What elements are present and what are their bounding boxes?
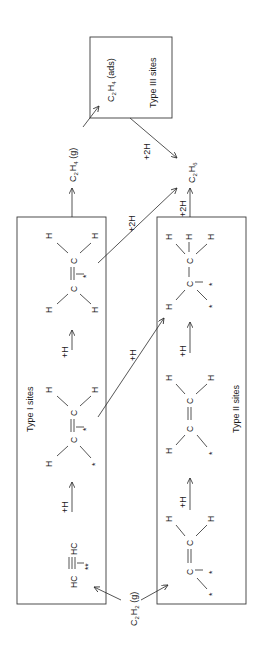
svg-text:H: H — [90, 233, 100, 239]
svg-text:C: C — [69, 437, 79, 443]
svg-text:H: H — [164, 375, 174, 381]
svg-text:H: H — [206, 516, 216, 522]
plus-h-label-type2-upper: +H — [178, 345, 188, 357]
plus-h-label-type1-upper: +H — [60, 346, 70, 358]
svg-text:*: * — [81, 427, 91, 431]
plus-2h-label-type1: +2H — [127, 215, 137, 232]
svg-text:HC: HC — [69, 543, 79, 555]
svg-text:HC: HC — [69, 576, 79, 588]
c2h6-label: C2H6 — [187, 162, 198, 183]
svg-text:C: C — [185, 281, 195, 287]
type2-sites-label: Type II sites — [231, 384, 241, 433]
svg-text:H: H — [164, 304, 174, 310]
svg-text:C: C — [185, 398, 195, 404]
plus-h-label-type1-lower: +H — [60, 501, 70, 513]
svg-text:C2H2 (g): C2H2 (g) — [129, 592, 140, 626]
svg-text:C: C — [69, 410, 79, 416]
svg-text:*: * — [207, 592, 217, 596]
svg-text:**: ** — [83, 563, 93, 570]
svg-text:C: C — [69, 286, 79, 292]
type3-sites-box — [90, 37, 172, 118]
arrow-type1-to-c2h6 — [98, 188, 177, 263]
svg-text:H: H — [44, 461, 54, 467]
arrow-type3-to-c2h6 — [130, 118, 177, 158]
svg-text:H: H — [164, 448, 174, 454]
svg-text:H: H — [44, 233, 54, 239]
arrow-type1-to-type2 — [98, 318, 164, 417]
arrow-c2h2-to-type1 — [94, 587, 121, 600]
svg-text:H: H — [206, 375, 216, 381]
svg-text:C: C — [185, 569, 195, 575]
svg-text:C: C — [185, 540, 195, 546]
type3-sites-label: Type III sites — [148, 57, 158, 108]
c2h2-gas-label: C2H2 (g) — [129, 592, 140, 626]
type2-molecule-bottom: H H C C * * — [164, 516, 217, 596]
plus-2h-label-type3: +2H — [142, 143, 152, 160]
plus-h-label-type2-lower: +H — [178, 496, 188, 508]
svg-text:C2H6: C2H6 — [187, 162, 198, 183]
svg-text:*: * — [207, 570, 217, 574]
svg-text:C2H4 (ads): C2H4 (ads) — [106, 58, 117, 102]
svg-text:C: C — [185, 258, 195, 264]
svg-text:*: * — [207, 451, 217, 455]
svg-text:H: H — [184, 234, 194, 240]
type1-molecule-top: H H C * C H H — [44, 233, 100, 313]
arrow-desorb-to-type3 — [83, 106, 99, 127]
svg-text:H: H — [90, 307, 100, 313]
plus-h-label-cross: +H — [128, 349, 138, 361]
c2h4-ads-label: C2H4 (ads) — [106, 58, 117, 102]
svg-text:*: * — [207, 282, 217, 286]
svg-text:C: C — [69, 258, 79, 264]
svg-text:H: H — [164, 516, 174, 522]
type1-molecule-bottom: HC ** HC — [69, 543, 93, 588]
svg-text:H: H — [44, 387, 54, 393]
svg-text:*: * — [207, 304, 217, 308]
plus-2h-label-type2: +2H — [178, 200, 188, 217]
svg-text:H: H — [44, 307, 54, 313]
svg-text:C: C — [185, 426, 195, 432]
svg-text:H: H — [90, 387, 100, 393]
svg-text:H: H — [164, 234, 174, 240]
svg-text:*: * — [81, 274, 91, 278]
type1-sites-label: Type I sites — [25, 386, 35, 432]
svg-text:H: H — [206, 234, 216, 240]
type1-molecule-middle: H H C * C H * — [44, 387, 100, 467]
reaction-diagram: Type III sites Type I sites Type II site… — [0, 0, 261, 646]
arrow-c2h2-to-type2 — [141, 585, 168, 600]
svg-text:*: * — [90, 462, 100, 466]
c2h4-gas-label: C2H4 (g) — [68, 148, 79, 182]
type2-molecule-top: H H H C C * H * — [164, 234, 217, 310]
svg-text:C2H4 (g): C2H4 (g) — [68, 148, 79, 182]
type2-molecule-middle: H H C C H * — [164, 375, 217, 455]
